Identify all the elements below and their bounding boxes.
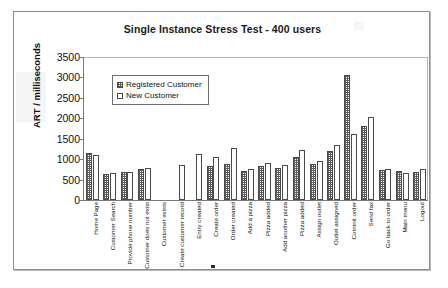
x-tick-cell: Send fax (358, 202, 375, 264)
y-tick-label: 3000 (40, 72, 80, 82)
bar-group (308, 57, 325, 200)
bar-new-customer (196, 154, 202, 200)
bar-new-customer (282, 165, 288, 200)
bar-registered-customer (310, 164, 316, 200)
y-tick-mark (80, 118, 84, 119)
x-tick-cell: Customer does not exist (135, 202, 152, 264)
x-tick-label: Customer Search (109, 202, 116, 250)
x-tick-label: Create order (212, 202, 219, 237)
legend-item: New Customer (117, 90, 202, 101)
chart-legend: Registered Customer New Customer (112, 75, 209, 105)
bar-new-customer (145, 168, 151, 200)
bar-new-customer (368, 117, 374, 200)
y-axis-tick-labels: 3500300025002000150010005000 (40, 52, 80, 192)
bar-registered-customer (103, 174, 109, 200)
x-tick-label: Add another pizza (281, 202, 288, 252)
y-tick-mark (80, 159, 84, 160)
bar-new-customer (403, 173, 409, 200)
x-tick-label: Home Page (92, 202, 99, 235)
y-tick-mark (80, 98, 84, 99)
bar-registered-customer (293, 157, 299, 200)
bar-new-customer (93, 155, 99, 200)
x-tick-label: Pizza added (264, 202, 271, 236)
bar-registered-customer (224, 164, 230, 200)
x-tick-label: Pizza added (298, 202, 305, 236)
bar-group (256, 57, 273, 200)
bar-new-customer (265, 163, 271, 200)
x-tick-cell: Add another pizza (272, 202, 289, 264)
x-tick-label: Assign outlet (315, 202, 322, 237)
y-tick-label: 2000 (40, 113, 80, 123)
y-tick-mark (80, 180, 84, 181)
x-tick-label: Commit order (350, 202, 357, 239)
legend-item: Registered Customer (117, 79, 202, 90)
x-tick-label: Customer exists (160, 202, 167, 246)
bar-new-customer (299, 150, 305, 200)
bar-group (342, 57, 359, 200)
bar-new-customer (231, 148, 237, 200)
bar-registered-customer (396, 171, 402, 200)
bar-new-customer (351, 134, 357, 200)
y-tick-mark (80, 57, 84, 58)
bar-new-customer (179, 165, 185, 200)
x-tick-label: Send fax (367, 202, 374, 226)
bar-new-customer (213, 157, 219, 200)
y-tick-label: 2500 (40, 93, 80, 103)
bottom-axis-marker (211, 265, 215, 268)
legend-label-new: New Customer (126, 90, 179, 101)
x-tick-label: Provide phone number (126, 202, 133, 265)
bar-group (359, 57, 376, 200)
x-tick-label: Logout (418, 202, 425, 221)
x-tick-cell: Provide phone number (117, 202, 134, 264)
x-tick-label: Create customer record (178, 202, 185, 267)
plot-area-wrapper: ART / milliseconds 350030002500200015001… (14, 12, 431, 271)
bar-registered-customer (86, 153, 92, 200)
bar-group (411, 57, 428, 200)
bar-registered-customer (327, 151, 333, 200)
x-tick-cell: Pizza added (289, 202, 306, 264)
x-tick-cell: Home Page (83, 202, 100, 264)
bar-new-customer (334, 145, 340, 200)
x-tick-label: Order created (229, 202, 236, 240)
bar-group (394, 57, 411, 200)
x-tick-cell: Main menu (393, 202, 410, 264)
bar-group (84, 57, 101, 200)
x-tick-label: Entry created (195, 202, 202, 239)
bar-group (290, 57, 307, 200)
bar-new-customer (317, 161, 323, 200)
legend-label-registered: Registered Customer (126, 79, 202, 90)
bar-group (273, 57, 290, 200)
bar-registered-customer (258, 166, 264, 200)
bar-registered-customer (207, 166, 213, 200)
bar-new-customer (110, 173, 116, 200)
y-tick-mark (80, 200, 84, 201)
bar-registered-customer (379, 170, 385, 200)
bar-registered-customer (138, 169, 144, 200)
bar-registered-customer (121, 172, 127, 200)
y-tick-mark (80, 139, 84, 140)
bar-new-customer (385, 169, 391, 200)
x-tick-cell: Customer exists (152, 202, 169, 264)
y-tick-mark (80, 77, 84, 78)
bar-new-customer (420, 169, 426, 200)
bar-registered-customer (241, 171, 247, 200)
x-tick-label: Outlet assigned (332, 202, 339, 245)
x-tick-cell: Logout (410, 202, 427, 264)
y-tick-label: 3500 (40, 52, 80, 62)
x-tick-label: Add a pizza (246, 202, 253, 234)
bar-registered-customer (413, 172, 419, 200)
x-tick-cell: Customer Search (100, 202, 117, 264)
legend-swatch-new-icon (117, 93, 123, 99)
x-tick-label: Go back to order (384, 202, 391, 248)
chart-frame: Single Instance Stress Test - 400 users … (13, 11, 430, 270)
bar-new-customer (248, 169, 254, 200)
x-tick-cell: Commit order (341, 202, 358, 264)
legend-swatch-registered-icon (117, 82, 123, 88)
x-tick-label: Customer does not exist (143, 202, 150, 269)
y-tick-label: 1500 (40, 134, 80, 144)
x-tick-cell: Add a pizza (238, 202, 255, 264)
x-tick-cell: Outlet assigned (324, 202, 341, 264)
bar-group (376, 57, 393, 200)
y-tick-label: 1000 (40, 154, 80, 164)
x-tick-cell: Pizza added (255, 202, 272, 264)
